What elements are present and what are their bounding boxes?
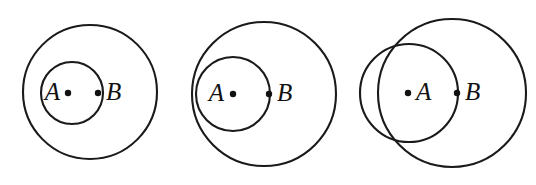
panel-2-point-B-dot: [266, 91, 272, 97]
panel-1-point-A-dot: [65, 90, 71, 96]
panel-2-point-A-dot: [230, 91, 236, 97]
panel-3-point-B-dot: [454, 90, 460, 96]
figure-container: ABABAB: [0, 0, 536, 185]
panel-1-point-B-label: B: [106, 78, 121, 105]
panel-2: AB: [192, 22, 336, 166]
circles-diagram-svg: ABABAB: [0, 0, 536, 185]
panel-2-point-A-label: A: [207, 79, 225, 106]
panel-3-point-A-label: A: [414, 78, 432, 105]
panel-3-point-B-label: B: [465, 78, 480, 105]
panel-2-point-B-label: B: [277, 79, 292, 106]
panel-1: AB: [23, 25, 157, 159]
panel-3: AB: [360, 19, 526, 167]
panel-3-point-A-dot: [405, 90, 411, 96]
panel-1-point-B-dot: [95, 90, 101, 96]
panel-1-large-circle: [23, 25, 157, 159]
panel-3-large-circle: [378, 19, 526, 167]
panel-1-point-A-label: A: [43, 78, 61, 105]
